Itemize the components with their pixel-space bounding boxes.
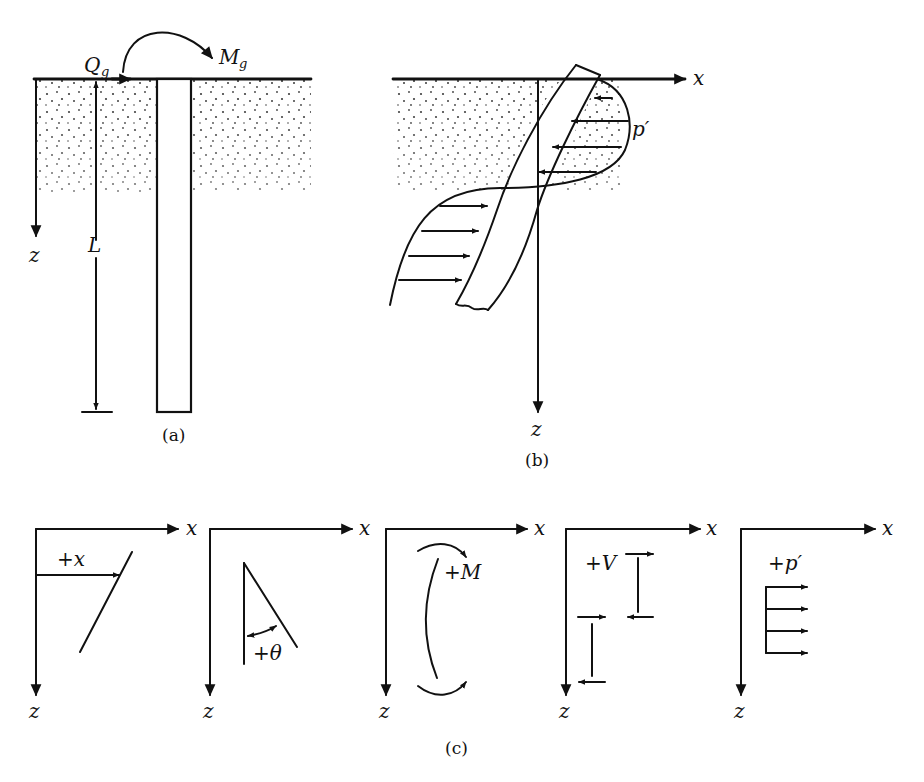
z-axis-label-b: z xyxy=(530,417,542,441)
caption-a: (a) xyxy=(162,425,185,445)
moment-arrow xyxy=(123,33,212,72)
lateral-load-label: Q xyxy=(84,53,100,77)
z-axis-label-a: z xyxy=(28,243,40,267)
length-label: L xyxy=(87,233,101,257)
moment-label: M xyxy=(218,45,240,69)
deflection-label: +x xyxy=(57,547,85,571)
caption-b: (b) xyxy=(525,450,549,470)
moment-label: +M xyxy=(444,560,482,584)
slope-arrow xyxy=(248,626,276,636)
soil-reaction-label: +p′ xyxy=(768,551,803,575)
panel-b: x z p′ (b) xyxy=(390,65,704,470)
sign-convention-deflection: x z +x xyxy=(28,516,197,723)
moment-arrow-top xyxy=(418,544,466,557)
pile xyxy=(157,79,191,412)
x-axis-label: x xyxy=(186,516,197,540)
caption-c: (c) xyxy=(445,738,468,758)
bent-element xyxy=(426,559,438,678)
pile-lateral-load-figure: z L Q g M g (a) xyxy=(0,0,924,782)
x-axis-label: x xyxy=(359,516,370,540)
pressure-label: p′ xyxy=(632,117,650,141)
moment-arrow-bottom xyxy=(418,682,466,695)
z-axis-label: z xyxy=(202,699,214,723)
shear-label: +V xyxy=(585,551,619,575)
panel-c: x z +x x z +θ x z +M xyxy=(28,516,893,758)
x-axis-label-b: x xyxy=(693,66,704,90)
z-axis-label: z xyxy=(558,699,570,723)
sign-convention-moment: x z +M xyxy=(378,516,545,723)
z-axis-label: z xyxy=(733,699,745,723)
z-axis-label: z xyxy=(28,699,40,723)
x-axis-label: x xyxy=(882,516,893,540)
moment-subscript: g xyxy=(239,56,247,71)
slope-label: +θ xyxy=(253,641,282,665)
x-axis-label: x xyxy=(534,516,545,540)
deflected-element xyxy=(80,552,132,652)
sign-convention-soil-reaction: x z +p′ xyxy=(733,516,893,723)
sign-convention-shear: x z +V xyxy=(558,516,717,723)
sign-convention-slope: x z +θ xyxy=(202,516,370,723)
x-axis-label: x xyxy=(706,516,717,540)
z-axis-label: z xyxy=(378,699,390,723)
panel-a: z L Q g M g (a) xyxy=(28,33,311,445)
lateral-load-subscript: g xyxy=(101,64,109,79)
